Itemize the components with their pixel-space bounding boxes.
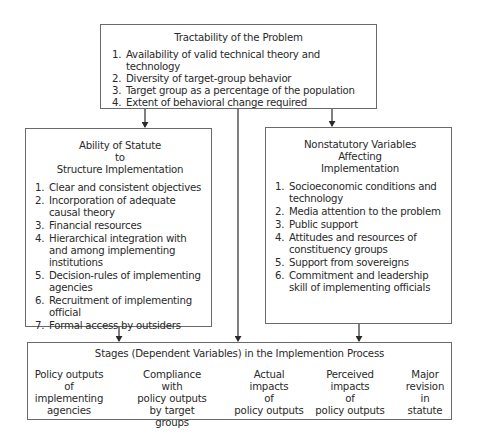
tractability-box: Tractability of the Problem 1.Availabili…	[100, 24, 377, 109]
statute-title: Ability of Statute to Structure Implemen…	[35, 140, 205, 176]
list-item: 3.Target group as a percentage of the po…	[112, 85, 376, 97]
nonstatutory-box: Nonstatutory Variables Affecting Impleme…	[265, 127, 452, 324]
list-item: 4.Hierarchical integration with and amon…	[35, 233, 205, 269]
nonstatutory-title: Nonstatutory Variables Affecting Impleme…	[275, 139, 445, 175]
list-item: 1.Availability of valid technical theory…	[112, 49, 376, 73]
list-item: 5.Support from sovereigns	[275, 257, 445, 269]
statute-box: Ability of Statute to Structure Implemen…	[25, 128, 212, 327]
list-item: 2.Media attention to the problem	[275, 206, 445, 218]
list-item: 4.Attitudes and resources of constituenc…	[275, 232, 445, 256]
nonstatutory-list: 1.Socioeconomic conditions and technolog…	[275, 181, 445, 294]
stages-title: Stages (Dependent Variables) in the Impl…	[28, 348, 451, 360]
list-item: 1.Clear and consistent objectives	[35, 182, 205, 194]
stage-compliance: Compliance with policy outputs by target…	[132, 369, 212, 429]
stage-perceived-impacts: Perceived impacts of policy outputs	[314, 369, 386, 417]
list-item: 6.Recruitment of implementing official	[35, 295, 205, 319]
list-item: 2.Diversity of target-group behavior	[112, 73, 376, 85]
stage-policy-outputs: Policy outputs of implementing agencies	[33, 369, 105, 417]
list-item: 7.Formal access by outsiders	[35, 320, 205, 332]
list-item: 1.Socioeconomic conditions and technolog…	[275, 181, 445, 205]
list-item: 3.Public support	[275, 219, 445, 231]
list-item: 4.Extent of behavioral change required	[112, 97, 376, 109]
list-item: 2.Incorporation of adequate causal theor…	[35, 195, 205, 219]
stage-major-revision: Major revision in statute	[401, 369, 449, 417]
list-item: 5.Decision-rules of implementing agencie…	[35, 270, 205, 294]
tractability-title: Tractability of the Problem	[112, 32, 365, 44]
tractability-list: 1.Availability of valid technical theory…	[112, 49, 376, 109]
stage-actual-impacts: Actual impacts of policy outputs	[233, 369, 305, 417]
statute-list: 1.Clear and consistent objectives 2.Inco…	[35, 182, 205, 332]
list-item: 3.Financial resources	[35, 220, 205, 232]
list-item: 6.Commitment and leadership skill of imp…	[275, 270, 445, 294]
